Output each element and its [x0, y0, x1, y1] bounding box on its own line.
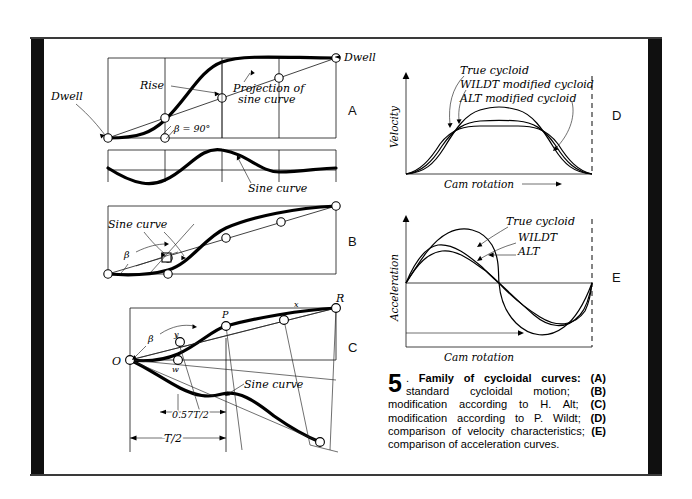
chart-e-annotation-wildt: WILDT [518, 231, 559, 244]
chart-d-annotation-alt: ALT modified cycloid [459, 92, 576, 105]
label-sine-curve-a: Sine curve [248, 182, 308, 195]
label-dim-outer: T/2 [164, 432, 182, 445]
panel-letter-b: B [348, 234, 357, 249]
label-rise: Rise [139, 79, 164, 92]
panel-letter-c: C [348, 340, 357, 355]
panel-c-node-mid [280, 316, 289, 325]
panel-a-node [104, 134, 112, 142]
chart-d-x-axis-label-group: Cam rotation [444, 178, 562, 190]
chart-e-series-true-cycloid [406, 229, 592, 335]
panel-letter-e: E [612, 270, 621, 285]
panel-letter-a: A [348, 103, 357, 118]
chart-d-series-true-cycloid [406, 107, 592, 174]
chart-e-y-axis [403, 215, 410, 347]
caption-tag-d: (D) [591, 412, 606, 424]
page-left-edge-bar [31, 39, 44, 474]
label-dwell-left: Dwell [50, 90, 83, 103]
label-dim-inner: 0.57T/2 [172, 409, 209, 420]
panel-a-label-dwell-right: Dwell [335, 51, 376, 64]
label-point-y: y [173, 330, 179, 339]
panel-c-label-beta: β [132, 324, 197, 360]
frame-bottom-line [30, 474, 662, 476]
label-beta-b: β [123, 249, 130, 260]
chart-d-annotation-true-cycloid: True cycloid [460, 64, 529, 77]
panel-b-node [164, 270, 172, 278]
label-point-r: R [335, 292, 344, 305]
chart-e-y-axis-label: Acceleration [388, 254, 400, 322]
panel-a-label-rise: Rise [139, 79, 220, 96]
label-dwell-right: Dwell [343, 51, 376, 64]
label-beta-c: β [147, 333, 154, 344]
caption-figure-number: 5 [388, 373, 402, 393]
label-sine-curve-b: Sine curve [108, 218, 168, 231]
label-point-w: w [172, 365, 179, 374]
caption-tag-c: (C) [591, 398, 606, 410]
caption-title: Family of cycloidal curves: [419, 372, 581, 384]
label-point-x: x [294, 300, 299, 309]
panel-c-dim-outer: T/2 [130, 432, 226, 445]
panel-c-node-low [316, 438, 325, 447]
label-beta-a: β = 90° [173, 123, 210, 134]
panel-b-node [332, 202, 340, 210]
chart-d-series-alt [406, 126, 592, 174]
caption-text-e: comparison of acceleration curves. [388, 438, 559, 450]
panel-c-node-o [126, 356, 135, 365]
chart-e-x-axis-label: Cam rotation [444, 351, 514, 363]
chart-d-y-axis [403, 72, 410, 174]
chart-d-x-axis-label: Cam rotation [444, 178, 514, 190]
panel-a-node [161, 114, 169, 122]
caption-text-c: modification according to P. Wildt; [388, 412, 591, 424]
panel-c-node-p [222, 322, 231, 331]
figure-panel-b: Sine curve β [48, 196, 358, 288]
frame-top-line [30, 37, 662, 39]
chart-d-series-wildt [406, 120, 592, 174]
panel-c-dim-inner: 0.57T/2 [160, 394, 226, 420]
panel-letter-d: D [612, 108, 621, 123]
panel-a-sine-box [108, 150, 336, 182]
caption-tag-a: (A) [591, 372, 606, 384]
chart-d-annotation-wildt: WILDT modified cycloid [460, 78, 594, 91]
caption-tag-b: (B) [591, 385, 606, 397]
chart-d-y-axis-label: Velocity [388, 105, 400, 148]
label-sine-curve-c: Sine curve [244, 378, 304, 391]
panel-a-label-dwell-left: Dwell [50, 90, 105, 138]
chart-panel-d-velocity: True cycloid WILDT modified cycloid ALT … [386, 52, 616, 192]
chart-panel-e-acceleration: True cycloid WILDT ALT Acceleration Cam … [386, 205, 616, 365]
caption-tag-e: (E) [591, 425, 606, 437]
caption-text-b: modification according to H. Alt; [388, 398, 591, 410]
figure-caption: 5. Family of cycloidal curves: (A) stand… [388, 372, 606, 451]
label-point-p: P [221, 309, 229, 320]
chart-e-annotation-alt: ALT [517, 245, 541, 258]
caption-text-d: comparison of velocity characteristics; [388, 425, 591, 437]
panel-b-node [222, 234, 230, 242]
panel-b-node [277, 218, 285, 226]
label-projection-line2: sine curve [238, 93, 296, 106]
figure-panel-c: O P R x y w β Sine curve [48, 290, 358, 465]
caption-number-suffix: . [406, 372, 409, 384]
panel-c-node-w [174, 356, 183, 365]
figure-panel-a: Dwell Dwell Rise Projection of sine curv… [48, 40, 358, 195]
label-point-o: O [112, 355, 121, 368]
caption-text-a: standard cycloidal motion; [406, 385, 591, 397]
panel-a-label-projection: Projection of sine curve [232, 70, 306, 106]
panel-a-node [275, 74, 283, 82]
page-right-edge-bar [648, 39, 662, 474]
scanned-page: Dwell Dwell Rise Projection of sine curv… [0, 0, 692, 499]
chart-e-annotation-true-cycloid: True cycloid [506, 215, 575, 228]
panel-b-node [104, 270, 112, 278]
